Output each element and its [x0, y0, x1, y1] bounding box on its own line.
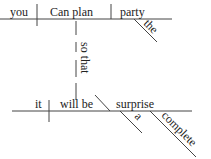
connector-label: so that — [78, 42, 92, 74]
sub-verb: will be — [60, 97, 93, 111]
main-object: party — [120, 5, 145, 19]
complement-slash — [95, 95, 110, 111]
complement-modifier-complete: complete — [159, 108, 200, 149]
main-verb: Can plan — [50, 5, 93, 19]
sub-complement: surprise — [116, 97, 154, 111]
sentence-diagram: you Can plan party the so that it will b… — [0, 0, 211, 159]
sub-subject: it — [35, 97, 42, 111]
main-subject: you — [10, 5, 28, 19]
